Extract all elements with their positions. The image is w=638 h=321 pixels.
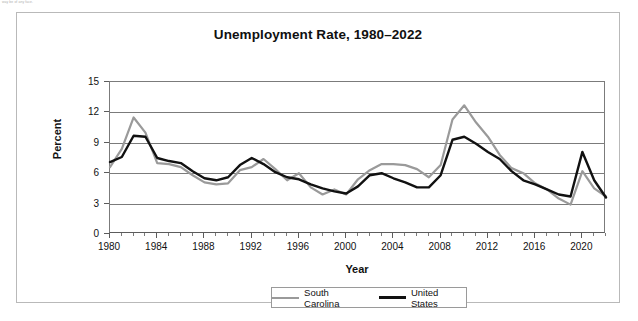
x-tick-minor xyxy=(274,233,275,236)
series-line xyxy=(110,136,606,198)
x-tick-minor xyxy=(144,233,145,236)
x-tick-label: 2004 xyxy=(372,241,412,252)
y-tick-label: 15 xyxy=(71,76,99,87)
x-tick-minor xyxy=(286,233,287,236)
x-tick-minor xyxy=(499,233,500,236)
x-tick-major xyxy=(203,233,204,238)
x-tick-minor xyxy=(546,233,547,236)
x-tick-minor xyxy=(511,233,512,236)
x-tick-minor xyxy=(121,233,122,236)
legend-swatch xyxy=(272,297,299,299)
x-tick-minor xyxy=(239,233,240,236)
x-axis-title: Year xyxy=(109,263,605,275)
x-tick-major xyxy=(534,233,535,238)
x-tick-minor xyxy=(192,233,193,236)
x-tick-label: 1980 xyxy=(89,241,129,252)
chart-legend: South CarolinaUnited States xyxy=(271,287,467,308)
x-tick-label: 2008 xyxy=(420,241,460,252)
x-tick-label: 1984 xyxy=(136,241,176,252)
x-tick-minor xyxy=(369,233,370,236)
x-tick-major xyxy=(109,233,110,238)
x-tick-minor xyxy=(605,233,606,236)
figure-frame: Unemployment Rate, 1980–2022 Percent 036… xyxy=(16,12,620,303)
x-tick-label: 2020 xyxy=(561,241,601,252)
faint-header-note: way be of any face. xyxy=(2,0,33,4)
x-tick-label: 2012 xyxy=(467,241,507,252)
x-tick-minor xyxy=(475,233,476,236)
x-tick-minor xyxy=(263,233,264,236)
x-tick-major xyxy=(440,233,441,238)
x-tick-minor xyxy=(570,233,571,236)
y-tick-label: 9 xyxy=(71,136,99,147)
x-tick-label: 2000 xyxy=(325,241,365,252)
legend-swatch xyxy=(379,296,406,299)
x-tick-major xyxy=(581,233,582,238)
y-tick-label: 12 xyxy=(71,106,99,117)
x-tick-minor xyxy=(322,233,323,236)
chart-title: Unemployment Rate, 1980–2022 xyxy=(17,27,619,42)
legend-entry: South Carolina xyxy=(272,287,365,309)
x-tick-major xyxy=(251,233,252,238)
x-tick-major xyxy=(487,233,488,238)
x-tick-minor xyxy=(215,233,216,236)
x-tick-minor xyxy=(428,233,429,236)
x-tick-minor xyxy=(357,233,358,236)
x-tick-label: 1996 xyxy=(278,241,318,252)
x-tick-minor xyxy=(522,233,523,236)
x-tick-label: 2016 xyxy=(514,241,554,252)
y-tick-label: 6 xyxy=(71,167,99,178)
x-tick-minor xyxy=(381,233,382,236)
x-tick-minor xyxy=(451,233,452,236)
x-tick-minor xyxy=(227,233,228,236)
y-tick-label: 3 xyxy=(71,197,99,208)
x-tick-minor xyxy=(168,233,169,236)
x-tick-minor xyxy=(180,233,181,236)
y-tick-label: 0 xyxy=(71,228,99,239)
x-tick-minor xyxy=(333,233,334,236)
x-tick-minor xyxy=(133,233,134,236)
x-tick-minor xyxy=(463,233,464,236)
series-line xyxy=(110,105,606,204)
legend-entry: United States xyxy=(379,287,466,309)
x-tick-major xyxy=(298,233,299,238)
x-tick-major xyxy=(345,233,346,238)
x-tick-minor xyxy=(310,233,311,236)
x-tick-major xyxy=(392,233,393,238)
plot-area xyxy=(109,81,605,233)
x-tick-major xyxy=(156,233,157,238)
series-lines xyxy=(110,82,606,234)
x-tick-minor xyxy=(404,233,405,236)
x-tick-minor xyxy=(416,233,417,236)
y-axis-title: Percent xyxy=(51,94,63,184)
x-tick-minor xyxy=(593,233,594,236)
legend-label: United States xyxy=(411,287,466,309)
x-tick-label: 1992 xyxy=(231,241,271,252)
legend-label: South Carolina xyxy=(304,287,365,309)
x-tick-minor xyxy=(558,233,559,236)
x-tick-label: 1988 xyxy=(183,241,223,252)
